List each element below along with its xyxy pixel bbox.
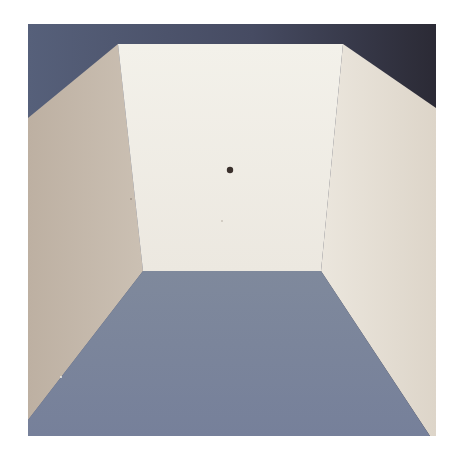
speck [60,376,62,378]
back-wall [118,44,343,271]
wall-dot [227,167,233,173]
room-perspective-image [0,0,463,465]
speck [221,220,222,221]
speck [130,198,132,200]
artwork [0,0,463,465]
